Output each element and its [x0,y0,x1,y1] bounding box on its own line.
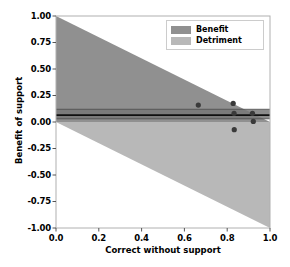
y-axis-label: Benefit of support [14,77,24,164]
legend: Benefit Detriment [166,20,264,50]
x-tick-label: 0.8 [216,233,238,243]
ci-band [56,109,270,119]
legend-item-detriment: Detriment [171,35,258,46]
x-tick-label: 0.2 [88,233,110,243]
data-point [196,102,201,107]
y-tick-label: 0.75 [31,37,51,47]
data-point [251,119,256,124]
x-tick-label: 1.0 [259,233,281,243]
y-tick-label: -1.00 [28,223,52,233]
data-point [231,101,236,106]
ci-band-rect [56,109,270,119]
legend-label-benefit: Benefit [196,25,228,34]
x-tick-label: 0.6 [173,233,195,243]
x-tick-label: 0.4 [131,233,153,243]
y-tick-label: 0.25 [31,90,51,100]
figure: 1.000.750.500.250.00-0.25-0.50-0.75-1.00… [0,0,290,267]
legend-item-benefit: Benefit [171,24,258,35]
y-tick-label: -0.75 [28,196,52,206]
y-tick-label: 0.00 [31,117,51,127]
x-tick-label: 0.0 [45,233,67,243]
legend-swatch-benefit [171,26,191,34]
legend-label-detriment: Detriment [196,36,242,45]
y-tick-label: 1.00 [31,11,51,21]
x-axis-label: Correct without support [0,245,290,255]
data-point [232,127,237,132]
y-tick-label: -0.50 [28,170,52,180]
data-point [250,111,255,116]
y-tick-label: -0.25 [28,143,52,153]
data-point [231,111,236,116]
legend-swatch-detriment [171,37,191,45]
y-tick-label: 0.50 [31,64,51,74]
